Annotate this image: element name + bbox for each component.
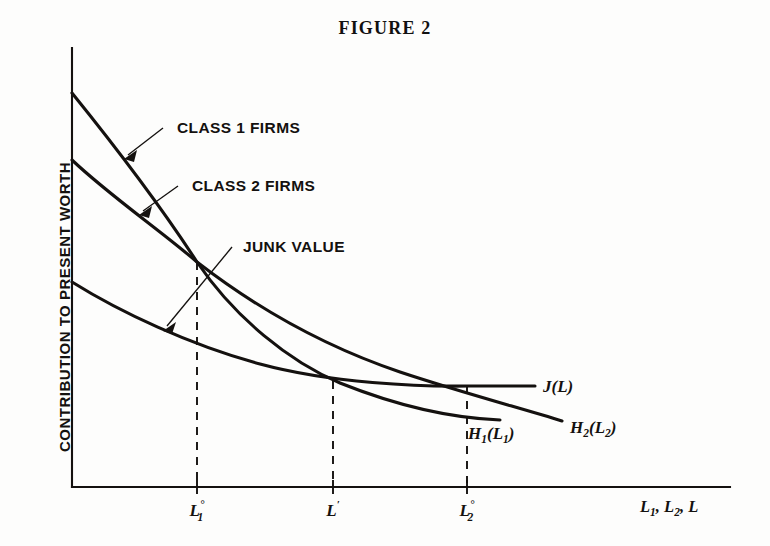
callout-junk-value: JUNK VALUE bbox=[243, 238, 345, 255]
x-tick-label-l1-opt: L°1 bbox=[189, 498, 205, 523]
figure-container: FIGURE 2 CONTRIBUTION TO PRESENT WORTH C… bbox=[0, 0, 770, 546]
curve-label-h2-of-l2: H2(L2) bbox=[569, 418, 616, 439]
plot-area: CLASS 1 FIRMS CLASS 2 FIRMS JUNK VALUE J… bbox=[0, 0, 770, 546]
callout-class-1-firms: CLASS 1 FIRMS bbox=[177, 119, 300, 136]
x-tick-label-l2-opt: L°2 bbox=[459, 498, 475, 523]
x-tick-label-l-prime: L′ bbox=[325, 498, 339, 520]
leader-line-junk-value bbox=[167, 247, 232, 326]
curve-h2-class-2-firms bbox=[72, 160, 562, 421]
leader-line-class-1-firms bbox=[128, 128, 163, 155]
curve-label-h1-of-l1: H1(L1) bbox=[467, 424, 514, 445]
curve-j-junk-value bbox=[72, 282, 535, 386]
callout-class-2-firms: CLASS 2 FIRMS bbox=[192, 177, 315, 194]
x-axis-title: L1, L2, L bbox=[639, 497, 698, 518]
curve-label-j-of-l: J(L) bbox=[542, 377, 573, 396]
